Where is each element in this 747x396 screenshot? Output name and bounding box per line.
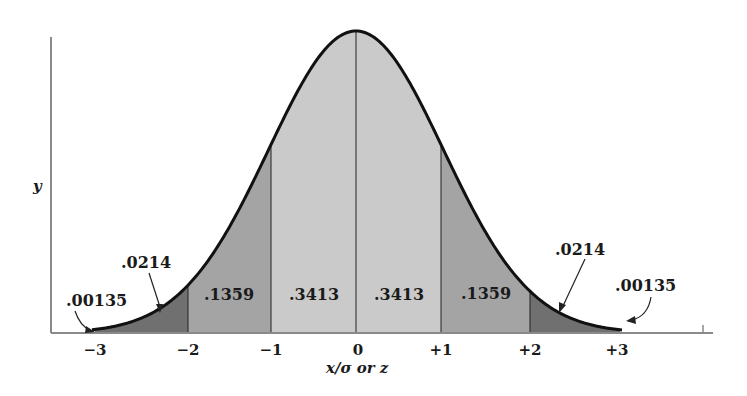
shaded-regions [95, 0, 620, 333]
tick-label: +3 [605, 341, 628, 359]
band-right-tail [530, 0, 620, 333]
area-label-left-middle: .1359 [204, 285, 254, 304]
tick-label: −3 [83, 341, 106, 359]
y-axis-label: y [32, 177, 43, 195]
x-axis-label: x/σ or z [325, 359, 389, 377]
area-label-right-tail: .0214 [555, 240, 605, 259]
band-left-tail [95, 0, 188, 333]
arrow-left-tail [149, 273, 160, 307]
tick-label: +1 [429, 341, 452, 359]
arrowhead-icon [559, 302, 566, 313]
arrow-left-far-tail [75, 311, 90, 330]
normal-distribution-diagram: y x/σ or z −3 −2 −1 0 +1 +2 +3 .1359 .34… [0, 0, 747, 396]
area-label-left-tail: .0214 [121, 253, 171, 272]
arrowhead-icon [626, 316, 636, 324]
band-left-middle [188, 0, 271, 333]
tick-label: 0 [353, 341, 363, 359]
tick-label: −1 [259, 341, 282, 359]
area-label-right-far-tail: .00135 [615, 276, 676, 295]
tick-label: −2 [176, 341, 199, 359]
tick-label: +2 [518, 341, 541, 359]
area-label-left-center: .3413 [289, 285, 339, 304]
arrow-right-tail [563, 259, 585, 306]
area-label-left-far-tail: .00135 [66, 291, 127, 310]
area-label-right-center: .3413 [374, 285, 424, 304]
area-label-right-middle: .1359 [461, 284, 511, 303]
